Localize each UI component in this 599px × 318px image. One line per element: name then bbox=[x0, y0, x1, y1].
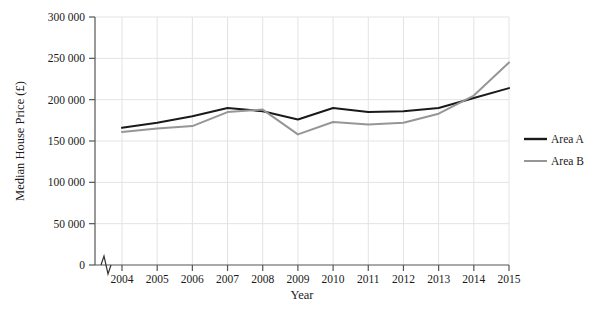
y-axis-tick-label: 250 000 bbox=[48, 52, 86, 64]
y-axis-tick-label: 100 000 bbox=[48, 176, 86, 188]
x-axis-tick-label: 2009 bbox=[286, 273, 309, 285]
x-axis-tick-label: 2012 bbox=[392, 273, 415, 285]
y-axis-title: Median House Price (£) bbox=[13, 81, 27, 201]
y-axis-tick-label: 200 000 bbox=[48, 94, 86, 106]
legend-label-area-b: Area B bbox=[551, 155, 584, 167]
median-house-price-line-chart: 050 000100 000150 000200 000250 000300 0… bbox=[0, 0, 599, 318]
y-axis-tick-label: 0 bbox=[79, 259, 85, 271]
x-axis-tick-label: 2011 bbox=[357, 273, 380, 285]
x-axis-tick-label: 2007 bbox=[216, 273, 239, 285]
x-axis-tick-label: 2008 bbox=[251, 273, 274, 285]
x-axis-tick-label: 2014 bbox=[462, 273, 485, 285]
x-axis-tick-label: 2010 bbox=[322, 273, 345, 285]
x-axis-title: Year bbox=[290, 288, 314, 302]
legend-label-area-a: Area A bbox=[551, 133, 585, 145]
x-axis-tick-label: 2015 bbox=[498, 273, 521, 285]
y-axis-tick-label: 150 000 bbox=[48, 135, 86, 147]
x-axis-tick-label: 2006 bbox=[181, 273, 204, 285]
x-axis-tick-label: 2004 bbox=[111, 273, 134, 285]
y-axis-tick-label: 300 000 bbox=[48, 11, 86, 23]
x-axis-tick-label: 2005 bbox=[146, 273, 169, 285]
chart-figure: 050 000100 000150 000200 000250 000300 0… bbox=[0, 0, 599, 318]
y-axis-tick-label: 50 000 bbox=[53, 218, 85, 230]
x-axis-tick-label: 2013 bbox=[427, 273, 450, 285]
